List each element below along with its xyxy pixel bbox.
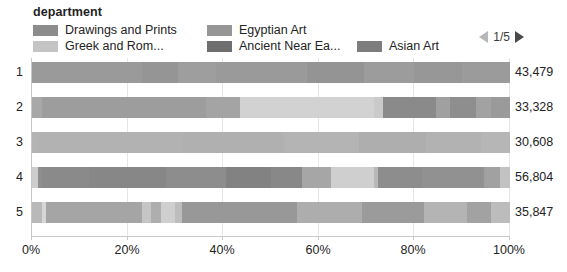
bar-segment[interactable] <box>32 132 39 153</box>
bar-segment[interactable] <box>271 167 302 188</box>
x-axis-tick-label: 80% <box>400 243 425 257</box>
chart-plot-area: 143,479233,328330,608456,804535,847 <box>31 58 510 236</box>
bar-segment[interactable] <box>481 132 510 153</box>
triangle-left-icon[interactable] <box>479 31 488 43</box>
bar-segment[interactable] <box>166 167 226 188</box>
bar-segment[interactable] <box>89 167 165 188</box>
bar-segment[interactable] <box>476 97 490 118</box>
legend-label-asian-art: Asian Art <box>389 39 439 54</box>
bar-segment[interactable] <box>359 132 426 153</box>
bar-row[interactable] <box>32 97 510 118</box>
x-axis-line <box>31 236 510 237</box>
bar-segment[interactable] <box>414 62 462 83</box>
bar-segment[interactable] <box>142 62 178 83</box>
legend-label-egyptian-art: Egyptian Art <box>239 23 306 38</box>
x-axis-tick-label: 0% <box>22 243 40 257</box>
bar-row-label: 3 <box>5 135 23 149</box>
bar-row-value: 30,608 <box>515 135 553 149</box>
bar-segment[interactable] <box>424 202 467 223</box>
x-axis-tick-label: 60% <box>305 243 330 257</box>
bar-segment[interactable] <box>175 202 182 223</box>
bar-segment[interactable] <box>362 202 424 223</box>
bar-segment[interactable] <box>331 167 374 188</box>
x-axis: 0%20%40%60%80%100% <box>31 236 510 260</box>
bar-segment[interactable] <box>182 202 297 223</box>
legend-row-2: Greek and Rom... Ancient Near Ea... Asia… <box>33 38 533 54</box>
bar-row-label: 1 <box>5 65 23 79</box>
legend: department Drawings and Prints Egyptian … <box>33 5 533 53</box>
legend-item-greek-and-roman[interactable]: Greek and Rom... <box>33 38 207 54</box>
bar-segment[interactable] <box>484 167 501 188</box>
bar-segment[interactable] <box>302 167 331 188</box>
triangle-right-icon[interactable] <box>515 31 524 43</box>
bar-segment[interactable] <box>491 97 510 118</box>
bar-segment[interactable] <box>500 167 510 188</box>
legend-item-drawings-and-prints[interactable]: Drawings and Prints <box>33 22 207 38</box>
x-axis-tick <box>127 236 128 240</box>
legend-swatch-egyptian-art <box>207 25 232 36</box>
legend-title: department <box>33 5 533 20</box>
legend-swatch-greek-and-roman <box>33 41 58 52</box>
bar-row[interactable] <box>32 62 510 83</box>
bar-segment[interactable] <box>39 132 182 153</box>
bar-row-label: 4 <box>5 170 23 184</box>
bar-segment[interactable] <box>151 202 161 223</box>
legend-label-drawings-and-prints: Drawings and Prints <box>65 23 177 38</box>
legend-items: Drawings and Prints Egyptian Art Greek a… <box>33 22 533 54</box>
legend-label-ancient-near-east: Ancient Near Ea... <box>239 39 340 54</box>
legend-item-ancient-near-east[interactable]: Ancient Near Ea... <box>207 38 357 54</box>
bar-segment[interactable] <box>307 62 364 83</box>
bar-segment[interactable] <box>450 97 476 118</box>
bar-segment[interactable] <box>297 202 362 223</box>
bar-row[interactable] <box>32 202 510 223</box>
legend-swatch-drawings-and-prints <box>33 25 58 36</box>
bar-segment[interactable] <box>462 62 510 83</box>
legend-label-greek-and-roman: Greek and Rom... <box>65 39 164 54</box>
bar-row[interactable] <box>32 167 510 188</box>
bar-segment[interactable] <box>216 62 307 83</box>
bar-segment[interactable] <box>467 202 491 223</box>
bar-segment[interactable] <box>142 202 152 223</box>
x-axis-tick-label: 20% <box>114 243 139 257</box>
x-axis-tick <box>222 236 223 240</box>
bar-segment[interactable] <box>32 202 42 223</box>
bar-segment[interactable] <box>374 97 384 118</box>
x-axis-tick <box>413 236 414 240</box>
bar-segment[interactable] <box>42 167 90 188</box>
x-axis-tick <box>509 236 510 240</box>
bar-segment[interactable] <box>378 167 421 188</box>
bar-segment[interactable] <box>364 62 414 83</box>
bar-segment[interactable] <box>46 202 142 223</box>
pager-page-indicator: 1/5 <box>493 31 510 43</box>
bar-segment[interactable] <box>283 132 359 153</box>
bar-segment[interactable] <box>178 62 216 83</box>
bar-segment[interactable] <box>383 97 436 118</box>
bar-segment[interactable] <box>42 97 207 118</box>
bar-segment[interactable] <box>226 167 271 188</box>
bar-segment[interactable] <box>161 202 175 223</box>
x-axis-tick-label: 40% <box>209 243 234 257</box>
bar-row-label: 5 <box>5 205 23 219</box>
bar-segment[interactable] <box>426 132 481 153</box>
bar-segment[interactable] <box>422 167 484 188</box>
bar-segment[interactable] <box>436 97 450 118</box>
bar-segment[interactable] <box>240 97 374 118</box>
bar-segment[interactable] <box>32 62 142 83</box>
x-axis-tick <box>31 236 32 240</box>
legend-swatch-asian-art <box>357 41 382 52</box>
x-axis-tick <box>318 236 319 240</box>
bar-row-value: 33,328 <box>515 100 553 114</box>
bar-segment[interactable] <box>491 202 510 223</box>
x-axis-tick-label: 100% <box>493 243 525 257</box>
bar-row-value: 43,479 <box>515 65 553 79</box>
bar-row-value: 56,804 <box>515 170 553 184</box>
bar-segment[interactable] <box>183 132 283 153</box>
bar-segment[interactable] <box>32 97 42 118</box>
legend-pager: 1/5 <box>479 31 524 43</box>
bar-segment[interactable] <box>206 97 239 118</box>
legend-item-asian-art[interactable]: Asian Art <box>357 38 477 54</box>
legend-item-egyptian-art[interactable]: Egyptian Art <box>207 22 357 38</box>
legend-row-1: Drawings and Prints Egyptian Art <box>33 22 533 38</box>
legend-swatch-ancient-near-east <box>207 41 232 52</box>
bar-row[interactable] <box>32 132 510 153</box>
